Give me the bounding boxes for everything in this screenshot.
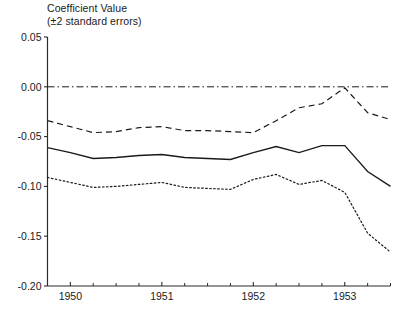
y-tick-label: -0.15 bbox=[18, 230, 42, 242]
x-axis-tick-labels: 1950195119521953 bbox=[59, 290, 357, 302]
y-tick-label: -0.05 bbox=[18, 130, 42, 142]
coefficient-estimate-series bbox=[48, 146, 391, 187]
x-tick-label: 1952 bbox=[242, 290, 266, 302]
x-tick-label: 1953 bbox=[333, 290, 357, 302]
y-tick-label: -0.20 bbox=[18, 280, 42, 292]
y-tick-label: -0.10 bbox=[18, 180, 42, 192]
x-tick-label: 1951 bbox=[150, 290, 174, 302]
upper-bound-series bbox=[48, 88, 391, 133]
y-tick-label: 0.05 bbox=[21, 31, 42, 43]
lower-bound-series bbox=[48, 174, 391, 252]
axis-tick-marks bbox=[44, 37, 391, 286]
y-tick-label: 0.00 bbox=[21, 81, 42, 93]
x-tick-label: 1950 bbox=[59, 290, 83, 302]
chart-canvas: 0.050.00-0.05-0.10-0.15-0.20 19501951195… bbox=[0, 0, 395, 314]
coefficient-plot: Coefficient Value (±2 standard errors) 0… bbox=[0, 0, 395, 314]
y-axis-tick-labels: 0.050.00-0.05-0.10-0.15-0.20 bbox=[18, 31, 42, 292]
